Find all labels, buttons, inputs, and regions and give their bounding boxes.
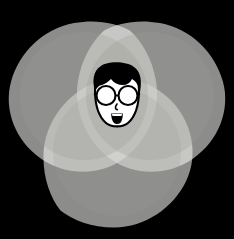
glasses-lens-left: [97, 86, 116, 105]
cartoon-face: [93, 62, 140, 126]
trefoil-figure: [0, 0, 234, 239]
glasses-lens-right: [119, 86, 138, 105]
mouth-teeth: [112, 114, 122, 116]
scene-canvas: Three Overlapping Translucent Lobes With…: [0, 0, 234, 239]
